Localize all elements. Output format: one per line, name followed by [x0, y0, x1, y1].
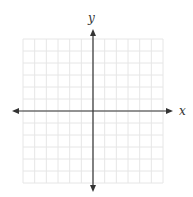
arrow-up-icon — [90, 29, 96, 36]
axes — [12, 29, 173, 192]
coordinate-plane: x y — [0, 0, 193, 197]
x-axis-label: x — [179, 104, 186, 118]
arrow-down-icon — [90, 185, 96, 192]
arrow-right-icon — [166, 108, 173, 114]
arrow-left-icon — [12, 108, 19, 114]
y-axis-label: y — [87, 11, 95, 25]
